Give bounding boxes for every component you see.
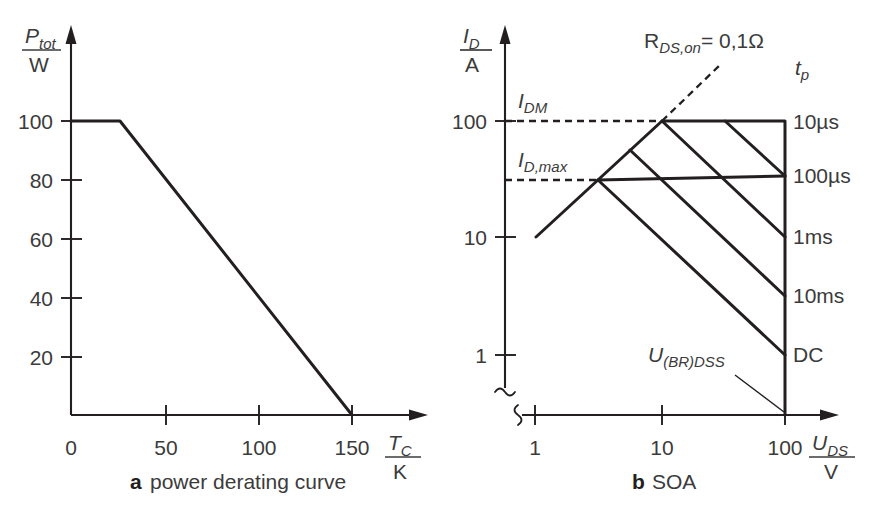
panel-b-y-axis: [500, 25, 511, 388]
panel-b-ytick-10: 10: [464, 226, 487, 249]
rds-on-dashed-extension: [662, 63, 722, 121]
tp-label-100us: 100µs: [793, 164, 851, 187]
panel-b-xtick-10: 10: [650, 436, 673, 459]
tp-label-10us: 10µs: [793, 110, 839, 133]
figure-container: 100 80 60 40 20 0 50 100 150 Ptot W TC K…: [0, 0, 871, 509]
panel-b-xtick-100: 100: [767, 436, 802, 459]
y-axis-break-squiggle: [495, 389, 515, 396]
tp-label-1ms: 1ms: [793, 225, 833, 248]
panel-b-ytick-100: 100: [452, 110, 487, 133]
ubrdss-label: U(BR)DSS: [648, 343, 725, 370]
rds-on-annotation: RDS,on= 0,1Ω: [644, 29, 764, 56]
soa-line-10ms: [630, 150, 785, 296]
panel-b-caption-text: SOA: [652, 470, 696, 493]
panel-b-xlabel-unit: V: [824, 460, 838, 483]
svg-text:ID: ID: [463, 24, 480, 52]
idm-label: IDM: [518, 89, 548, 116]
panel-b-y-axis-label: ID A: [460, 24, 492, 76]
panel-b-soa: 100 10 1 1 10 100 ID A UDS V IDM ID,max …: [0, 0, 871, 509]
x-axis-break-squiggle: [515, 405, 522, 425]
idmax-label: ID,max: [518, 148, 568, 175]
soa-line-100us-upper: [598, 176, 785, 180]
panel-b-caption: b SOA: [632, 470, 696, 493]
tp-label-dc: DC: [793, 343, 823, 366]
panel-b-xlabel-symbol: U: [812, 431, 828, 454]
panel-b-caption-letter: b: [632, 470, 645, 493]
panel-b-ylabel-unit: A: [465, 53, 479, 76]
panel-b-x-axis-label: UDS V: [809, 431, 855, 483]
soa-outer-boundary: [536, 121, 785, 415]
soa-line-10us-to-100us: [725, 121, 785, 176]
panel-b-x-axis: [522, 410, 839, 421]
x-axis-arrowhead: [820, 410, 839, 421]
svg-text:UDS: UDS: [812, 431, 848, 459]
panel-b-xtick-1: 1: [529, 436, 541, 459]
tp-header-label: tp: [795, 56, 809, 83]
tp-label-10ms: 10ms: [793, 284, 844, 307]
ubrdss-leader-line: [735, 375, 784, 412]
y-axis-arrowhead: [500, 25, 511, 44]
panel-b-ytick-1: 1: [475, 344, 487, 367]
